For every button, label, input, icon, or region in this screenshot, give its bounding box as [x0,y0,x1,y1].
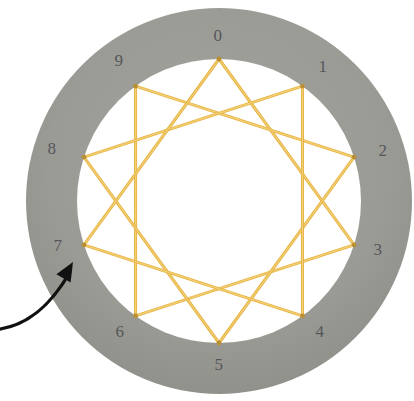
node-label-0: 0 [214,27,223,44]
node-label-5: 5 [215,356,224,373]
hoop-board [26,8,412,394]
pin-dot-9 [133,84,138,89]
pin-dot-1 [300,84,305,89]
node-label-8: 8 [48,140,57,157]
pin-dot-3 [352,242,357,247]
node-label-7: 7 [54,237,63,254]
node-label-2: 2 [379,142,388,159]
pin-dot-0 [217,57,222,62]
node-label-4: 4 [316,323,325,340]
node-label-1: 1 [319,58,328,75]
node-label-3: 3 [374,241,383,258]
node-label-9: 9 [115,52,124,69]
pin-dot-5 [217,341,222,346]
node-label-6: 6 [116,323,125,340]
string-art-figure: 0123456789 [0,0,414,401]
pin-dot-7 [82,242,87,247]
pin-dot-2 [352,155,357,160]
pin-dot-4 [300,313,305,318]
pin-dot-6 [133,313,138,318]
hoop-inner-face [77,59,361,343]
figure-canvas [0,0,414,401]
pin-dot-8 [82,155,87,160]
